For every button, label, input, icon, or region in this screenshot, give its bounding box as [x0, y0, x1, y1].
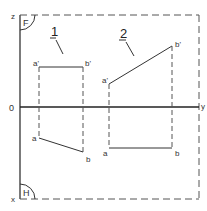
horizontal-plane-label: H: [23, 188, 30, 198]
figure-1-point-b: b: [86, 155, 91, 164]
figure-1-leader: [56, 40, 63, 54]
z-axis-label: z: [11, 12, 15, 21]
frontal-plane-label: F: [23, 18, 29, 28]
figure-2: 2 a' b' a b: [102, 26, 181, 158]
figure-2-point-b: b: [175, 149, 180, 158]
figure-1-point-b-prime: b': [85, 59, 91, 68]
figure-2-point-b-prime: b': [175, 40, 181, 49]
figure-2-point-a: a: [103, 149, 108, 158]
x-axis-label: x: [11, 195, 15, 204]
figure-1-number: 1: [51, 24, 58, 39]
figure-2-number: 2: [120, 26, 127, 41]
figure-1-horizontal-segment: [39, 138, 83, 152]
figure-2-point-a-prime: a': [102, 76, 108, 85]
projection-diagram: F H z 0 y x 1 a' b' a b 2 a' b' a b: [0, 0, 207, 211]
figure-1-point-a: a: [32, 134, 37, 143]
figure-2-frontal-segment: [109, 46, 172, 84]
figure-1-point-a-prime: a': [33, 59, 39, 68]
figure-1: 1 a' b' a b: [32, 24, 91, 164]
origin-label: 0: [9, 103, 14, 113]
y-axis-label: y: [201, 102, 205, 111]
figure-2-leader: [126, 42, 134, 56]
